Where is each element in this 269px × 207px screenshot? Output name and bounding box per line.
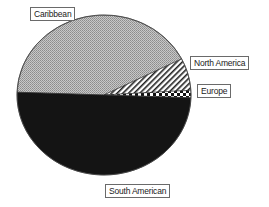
slice-label-caribbean: Caribbean: [30, 7, 75, 21]
slice-label-north-america: North America: [190, 56, 249, 70]
pie-slice-south-american: [17, 92, 191, 175]
pie-chart: [0, 0, 269, 207]
slice-label-europe: Europe: [197, 84, 231, 98]
slice-label-south-american: South American: [105, 184, 170, 198]
